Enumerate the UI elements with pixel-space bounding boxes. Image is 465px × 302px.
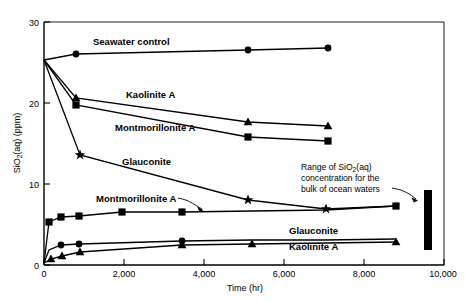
- series-seawater-control: [44, 45, 331, 60]
- series-kaolinite-a-lower: [44, 238, 400, 263]
- data-point-marker: [58, 242, 65, 249]
- data-point-marker: [73, 51, 80, 58]
- chart-figure: 30 20 10 0 0 2,000 4,000 6,000 8,000 10,…: [0, 0, 465, 302]
- annotation-line3: bulk of ocean waters: [301, 184, 380, 194]
- svg-text:SiO2(aq) (ppm): SiO2(aq) (ppm): [12, 113, 23, 174]
- ocean-range-annotation: Range of SiO2(aq) concentration for the …: [301, 162, 418, 203]
- data-point-marker: [392, 202, 399, 209]
- series-montmorillonite-a-lower: [44, 202, 400, 263]
- y-axis-title-post: (aq) (ppm): [12, 113, 22, 155]
- data-point-marker: [45, 218, 52, 225]
- series-label-glauconite-upper: Glauconite: [122, 156, 171, 167]
- x-axis-ticks: 0 2,000 4,000 6,000 8,000 10,000: [41, 259, 456, 279]
- data-point-marker: [324, 137, 331, 144]
- series-label-glauconite-lower: Glauconite: [289, 225, 338, 236]
- data-point-marker: [76, 241, 83, 248]
- series-kaolinite-a-upper: [44, 60, 332, 129]
- ocean-water-range-bar: [424, 190, 432, 250]
- x-tick-label-8000: 8,000: [353, 269, 376, 279]
- silica-concentration-chart: 30 20 10 0 0 2,000 4,000 6,000 8,000 10,…: [0, 0, 465, 302]
- data-point-marker: [72, 101, 79, 108]
- annotation-line1-pre: Range of SiO: [301, 162, 353, 172]
- data-point-marker: [75, 212, 82, 219]
- data-point-marker: [325, 45, 332, 52]
- x-tick-label-2000: 2,000: [113, 269, 136, 279]
- y-tick-label-20: 20: [29, 99, 39, 109]
- series-label-montmorillonite-a-lower: Montmorillonite A: [96, 193, 177, 204]
- y-tick-label-0: 0: [34, 261, 39, 271]
- y-tick-label-30: 30: [29, 18, 39, 28]
- y-axis-title: SiO2(aq) (ppm): [12, 113, 23, 174]
- plot-frame: [44, 22, 444, 265]
- svg-text:Range of SiO2(aq): Range of SiO2(aq): [301, 162, 372, 173]
- y-axis-title-pre: SiO: [12, 158, 22, 173]
- data-point-marker: [244, 133, 251, 140]
- x-tick-label-4000: 4,000: [193, 269, 216, 279]
- x-tick-label-6000: 6,000: [273, 269, 296, 279]
- data-point-marker: [178, 208, 185, 215]
- data-point-marker: [321, 204, 332, 214]
- y-axis-ticks: 30 20 10 0: [29, 18, 50, 271]
- series-label-kaolinite-a-lower: Kaolinite A: [289, 241, 338, 252]
- annotation-line1-post: (aq): [356, 162, 371, 172]
- x-tick-label-10000: 10,000: [429, 269, 457, 279]
- data-point-marker: [243, 195, 254, 205]
- data-point-marker: [245, 47, 252, 54]
- annotation-leader-line: [392, 188, 416, 199]
- data-point-marker: [118, 208, 125, 215]
- data-point-marker: [57, 213, 64, 220]
- series-label-seawater-control: Seawater control: [93, 36, 170, 47]
- y-tick-label-10: 10: [29, 180, 39, 190]
- x-axis-title: Time (hr): [227, 283, 263, 293]
- data-point-marker: [75, 150, 86, 160]
- series-label-montmorillonite-a-upper: Montmorillonite A: [115, 122, 196, 133]
- series-label-kaolinite-a-upper: Kaolinite A: [126, 89, 175, 100]
- x-tick-label-0: 0: [41, 269, 46, 279]
- annotation-line2: concentration for the: [301, 173, 380, 183]
